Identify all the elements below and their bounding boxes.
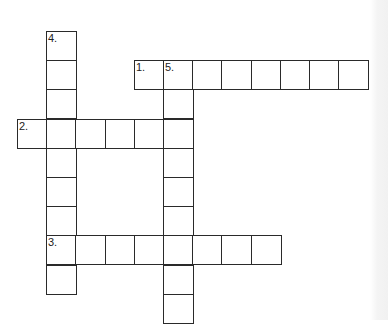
crossword-cell[interactable]: 5.	[163, 60, 194, 90]
crossword-cell[interactable]: 4.	[46, 31, 77, 61]
crossword-cell[interactable]	[46, 89, 77, 119]
clue-number: 5.	[165, 61, 174, 73]
crossword-cell[interactable]	[251, 60, 282, 90]
crossword-cell[interactable]	[163, 119, 194, 149]
crossword-cell[interactable]	[75, 235, 106, 265]
crossword-cell[interactable]	[163, 265, 194, 295]
clue-number: 1.	[136, 61, 145, 73]
crossword-cell[interactable]	[134, 119, 165, 149]
crossword-cell[interactable]	[46, 119, 77, 149]
crossword-cell[interactable]	[105, 119, 136, 149]
crossword-cell[interactable]	[192, 235, 223, 265]
crossword-cell[interactable]	[46, 60, 77, 90]
crossword-cell[interactable]	[163, 89, 194, 119]
clue-number: 3.	[48, 236, 57, 248]
crossword-cell[interactable]	[251, 235, 282, 265]
crossword-cell[interactable]	[221, 60, 252, 90]
crossword-cell[interactable]: 1.	[134, 60, 165, 90]
crossword-cell[interactable]	[105, 235, 136, 265]
crossword-cell[interactable]: 2.	[17, 119, 48, 149]
crossword-cell[interactable]	[280, 60, 311, 90]
crossword-cell[interactable]	[46, 177, 77, 207]
crossword-cell[interactable]	[163, 235, 194, 265]
crossword-cell[interactable]	[46, 206, 77, 236]
crossword-cell[interactable]	[163, 177, 194, 207]
crossword-cell[interactable]	[163, 206, 194, 236]
crossword-cell[interactable]	[221, 235, 252, 265]
clue-number: 2.	[19, 120, 28, 132]
crossword-cell[interactable]	[192, 60, 223, 90]
crossword-cell[interactable]	[46, 265, 77, 295]
crossword-cell[interactable]	[163, 294, 194, 324]
crossword-cell[interactable]	[163, 148, 194, 178]
clue-number: 4.	[48, 32, 57, 44]
crossword-cell[interactable]	[75, 119, 106, 149]
crossword-cell[interactable]	[309, 60, 340, 90]
crossword-cell[interactable]	[338, 60, 369, 90]
crossword-cell[interactable]: 3.	[46, 235, 77, 265]
crossword-cell[interactable]	[134, 235, 165, 265]
crossword-cell[interactable]	[46, 148, 77, 178]
